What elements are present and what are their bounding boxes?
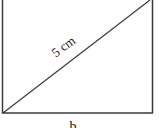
diagonal-label: 5 cm [49, 33, 79, 60]
rectangle-diagram: 5 cm b [0, 0, 159, 128]
bottom-label: b [70, 119, 77, 128]
diagonal-line [3, 0, 150, 113]
